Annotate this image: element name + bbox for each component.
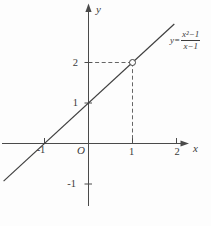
equation-denominator: x−1 — [181, 41, 200, 51]
x-tick-label-2: 2 — [174, 146, 179, 157]
equation-numerator: x²−1 — [181, 30, 200, 41]
origin-label: O — [77, 144, 85, 156]
equation-lhs: y= — [170, 36, 180, 45]
x-tick-label-neg1: -1 — [37, 144, 46, 155]
function-equation-label: y= x²−1 x−1 — [170, 30, 200, 51]
x-tick-label-1: 1 — [129, 146, 134, 157]
figure: y x O 2 1 -1 -1 1 2 y= x²−1 x−1 — [0, 0, 211, 226]
y-axis-label: y — [95, 3, 101, 15]
hole-marker — [130, 60, 136, 66]
equation-fraction: x²−1 x−1 — [181, 30, 200, 51]
dashed-guides — [89, 63, 133, 144]
x-axis-label: x — [192, 142, 198, 154]
y-tick-label-neg1: -1 — [67, 178, 76, 189]
axes — [2, 4, 189, 207]
x-axis-arrow-icon — [181, 140, 190, 146]
y-tick-label-1: 1 — [73, 97, 78, 108]
y-tick-label-2: 2 — [73, 57, 78, 68]
y-axis-arrow-icon — [85, 4, 91, 13]
